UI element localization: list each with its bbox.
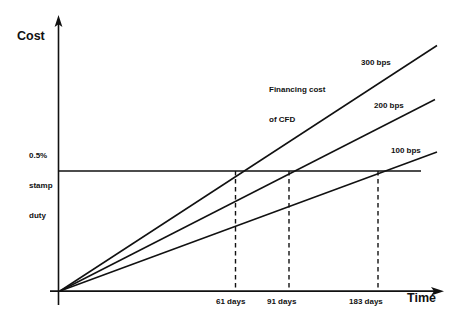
x-tick-label-91-days: 91 days <box>267 297 296 307</box>
series-line-100bps <box>60 152 437 291</box>
financing-cost-annotation: Financing cost of CFD <box>269 65 325 145</box>
stamp-duty-label-line3: duty <box>29 211 53 221</box>
y-axis-title: Cost <box>17 31 45 41</box>
series-label-300bps: 300 bps <box>361 58 391 68</box>
series-line-200bps <box>60 100 435 292</box>
stamp-duty-label: 0.5% stamp duty <box>29 131 53 241</box>
x-tick-label-61-days: 61 days <box>216 297 245 307</box>
series-label-100bps: 100 bps <box>391 146 421 156</box>
stamp-duty-label-line1: 0.5% <box>29 151 53 161</box>
financing-cost-annotation-line1: Financing cost <box>269 85 325 95</box>
x-axis-title: Time <box>407 293 436 303</box>
series-label-200bps: 200 bps <box>374 101 404 111</box>
financing-cost-annotation-line2: of CFD <box>269 115 325 125</box>
cost-vs-time-chart: Cost Time 0.5% stamp duty Financing cost… <box>0 0 451 327</box>
series-line-300bps <box>60 46 437 292</box>
stamp-duty-label-line2: stamp <box>29 181 53 191</box>
x-tick-label-183-days: 183 days <box>349 297 383 307</box>
chart-canvas <box>0 0 451 327</box>
